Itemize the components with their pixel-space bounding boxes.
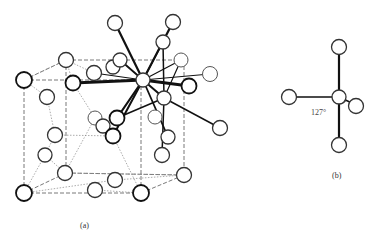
crystal-structure-figure: (a) 127° (b) — [0, 0, 373, 237]
central-atom — [136, 73, 150, 87]
panel-a-unit-cell: (a) — [16, 15, 228, 231]
coordination-bonds — [73, 22, 220, 155]
atoms — [16, 15, 228, 202]
panel-b-coordination: 127° (b) — [282, 40, 364, 181]
panel-b-label: (b) — [332, 171, 342, 180]
panel-a-label: (a) — [80, 221, 89, 230]
angle-label: 127° — [311, 108, 326, 117]
